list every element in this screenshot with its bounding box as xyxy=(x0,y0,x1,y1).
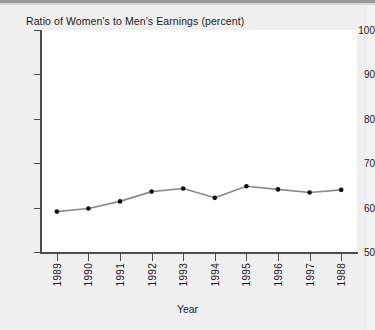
series-markers xyxy=(55,184,344,214)
data-point-marker xyxy=(339,188,344,193)
x-axis-title: Year xyxy=(0,303,375,315)
data-point-marker xyxy=(276,187,281,192)
data-point-marker xyxy=(86,206,91,211)
chart-figure: Ratio of Women's to Men's Earnings (perc… xyxy=(0,0,375,330)
series-layer xyxy=(0,0,375,330)
data-point-marker xyxy=(213,196,218,201)
data-point-marker xyxy=(149,189,154,194)
data-point-marker xyxy=(244,184,249,189)
data-point-marker xyxy=(118,199,123,204)
data-point-marker xyxy=(55,209,60,214)
series-line-earnings-ratio xyxy=(57,186,341,211)
data-point-marker xyxy=(307,190,312,195)
data-point-marker xyxy=(181,186,186,191)
